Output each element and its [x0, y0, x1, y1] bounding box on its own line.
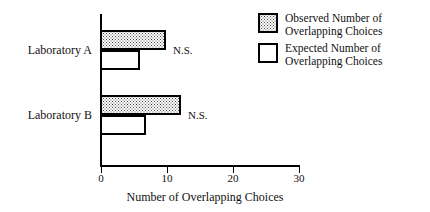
legend-label-expected: Expected Number of Overlapping Choices	[285, 42, 382, 68]
x-axis-tick-label-30: 30	[284, 172, 314, 185]
legend-label-expected-line1: Expected Number of	[285, 42, 382, 55]
legend-item-observed: Observed Number of Overlapping Choices	[258, 12, 430, 38]
x-axis-tick-label-10: 10	[152, 172, 182, 185]
x-axis-title: Number of Overlapping Choices	[60, 190, 350, 204]
annotation-ns-laboratory-b: N.S.	[188, 109, 208, 122]
bar-expected-laboratory-a	[100, 50, 140, 70]
chart-figure: 0 10 20 30 Laboratory A Laboratory B N.S…	[0, 0, 430, 212]
x-axis-line	[100, 165, 300, 167]
legend-label-observed-line1: Observed Number of	[285, 12, 382, 25]
annotation-ns-laboratory-a: N.S.	[173, 44, 193, 57]
x-axis-tick-label-0: 0	[86, 172, 116, 185]
bar-observed-laboratory-b	[100, 95, 181, 115]
legend-swatch-observed-icon	[258, 13, 278, 33]
category-label-laboratory-b: Laboratory B	[0, 108, 92, 122]
x-axis-tick-label-20: 20	[218, 172, 248, 185]
legend-swatch-expected-icon	[258, 43, 278, 63]
legend-label-expected-line2: Overlapping Choices	[285, 55, 382, 68]
bar-expected-laboratory-b	[100, 115, 146, 135]
chart-legend: Observed Number of Overlapping Choices E…	[258, 12, 430, 72]
category-label-laboratory-a: Laboratory A	[0, 43, 92, 57]
legend-label-observed-line2: Overlapping Choices	[285, 25, 382, 38]
legend-label-observed: Observed Number of Overlapping Choices	[285, 12, 382, 38]
legend-item-expected: Expected Number of Overlapping Choices	[258, 42, 430, 68]
bar-observed-laboratory-a	[100, 30, 166, 50]
